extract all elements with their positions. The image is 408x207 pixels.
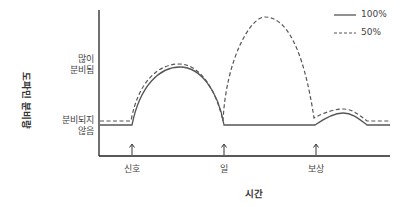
xtick-signal: 신호 <box>124 162 140 175</box>
x-axis-label: 시간 <box>245 186 263 200</box>
arrow-up-icon <box>130 144 135 155</box>
xtick-reward: 보상 <box>308 162 324 175</box>
ytick-low: 분비되지 않음 <box>40 115 94 137</box>
ytick-low-line2: 않음 <box>40 126 94 137</box>
ytick-low-line1: 분비되지 <box>40 115 94 126</box>
legend-label-100: 100% <box>361 9 387 19</box>
ytick-high: 많이 분비됨 <box>40 54 94 76</box>
series-100-line <box>100 67 390 125</box>
legend-label-50: 50% <box>361 27 381 37</box>
y-axis-label: 도파민 분비량 <box>20 72 34 129</box>
arrow-up-icon <box>222 144 227 155</box>
ytick-high-line2: 분비됨 <box>40 65 94 76</box>
arrow-up-icon <box>314 144 319 155</box>
chart-canvas <box>0 0 408 207</box>
ytick-high-line1: 많이 <box>40 54 94 65</box>
xtick-task: 일 <box>220 162 228 175</box>
